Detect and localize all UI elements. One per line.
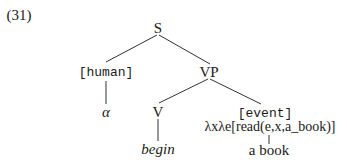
node-event-feature: [event] — [238, 107, 293, 120]
node-v: V — [153, 105, 164, 120]
leaf-alpha: α — [102, 105, 110, 120]
node-s: S — [154, 21, 162, 36]
node-vp: VP — [199, 65, 218, 80]
edge-s-vp — [159, 35, 210, 64]
edge-s-human — [106, 35, 157, 62]
example-number: (31) — [7, 8, 32, 23]
edge-vp-v — [159, 79, 208, 103]
node-semantics: λxλe[read(e,x,a_book)] — [205, 120, 336, 134]
edge-vp-event — [210, 79, 261, 104]
node-human-feature: [human] — [79, 66, 134, 79]
leaf-a-book: a book — [249, 143, 289, 158]
leaf-begin: begin — [141, 142, 174, 157]
